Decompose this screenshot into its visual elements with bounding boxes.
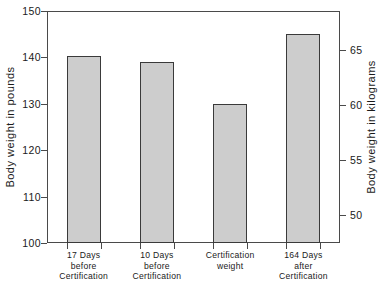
y-tick-label-left-2: 120 xyxy=(22,144,41,156)
y-tick-left-1 xyxy=(41,197,47,198)
y-tick-label-right-2: 60 xyxy=(350,99,362,111)
y-tick-right-3 xyxy=(340,50,346,51)
y-tick-left-3 xyxy=(41,104,47,105)
x-tick-4 xyxy=(213,243,214,249)
x-tick-7 xyxy=(320,243,321,249)
y-tick-left-4 xyxy=(41,57,47,58)
bar-3 xyxy=(286,34,320,243)
x-tick-5 xyxy=(247,243,248,249)
y-tick-right-1 xyxy=(340,160,346,161)
y-tick-label-right-1: 55 xyxy=(350,154,362,166)
bar-0 xyxy=(67,56,101,243)
y-axis-title-left: Body weight in pounds xyxy=(4,66,16,187)
x-tick-6 xyxy=(286,243,287,249)
y-tick-right-0 xyxy=(340,215,346,216)
x-tick-1 xyxy=(101,243,102,249)
bars-layer xyxy=(47,11,340,243)
y-axis-title-right: Body weight in kilograms xyxy=(365,60,377,194)
y-tick-label-left-4: 140 xyxy=(22,51,41,63)
y-tick-label-left-3: 130 xyxy=(22,98,41,110)
bar-2 xyxy=(213,104,247,243)
bar-1 xyxy=(140,62,174,243)
x-tick-3 xyxy=(174,243,175,249)
y-tick-label-left-0: 100 xyxy=(22,237,41,249)
y-tick-right-2 xyxy=(340,105,346,106)
y-tick-left-0 xyxy=(41,243,47,244)
x-category-label-3-line-0: 164 Days xyxy=(255,250,351,261)
bar-chart: 100 110 120 130 140 150 50 55 60 65 17 D… xyxy=(0,0,382,294)
y-tick-label-right-3: 65 xyxy=(350,44,362,56)
x-category-label-3-line-2: Certification xyxy=(255,271,351,282)
y-tick-left-5 xyxy=(41,11,47,12)
y-tick-label-left-1: 110 xyxy=(23,191,41,203)
y-tick-label-left-5: 150 xyxy=(22,5,41,17)
x-tick-0 xyxy=(67,243,68,249)
x-category-label-3: 164 Days after Certification xyxy=(255,250,351,282)
x-category-label-3-line-1: after xyxy=(255,261,351,272)
y-tick-left-2 xyxy=(41,150,47,151)
x-tick-2 xyxy=(140,243,141,249)
x-category-label-1-line-2: Certification xyxy=(109,271,205,282)
y-tick-label-right-0: 50 xyxy=(350,209,362,221)
